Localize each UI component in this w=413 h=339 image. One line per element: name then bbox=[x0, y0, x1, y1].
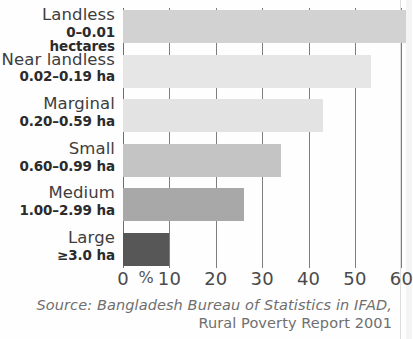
category-label-near-landless: Near landless0.02–0.19 ha bbox=[0, 51, 115, 84]
plot-area bbox=[123, 8, 392, 268]
category-name: Medium bbox=[0, 184, 115, 202]
category-name: Marginal bbox=[0, 95, 115, 113]
category-label-marginal: Marginal0.20–0.59 ha bbox=[0, 95, 115, 128]
category-label-landless: Landless0–0.01 hectares bbox=[0, 6, 115, 54]
x-axis-tick-labels: 0102030405060% bbox=[0, 268, 412, 294]
bar-marginal bbox=[123, 99, 323, 132]
category-range: 1.00–2.99 ha bbox=[0, 203, 115, 218]
category-name: Small bbox=[0, 140, 115, 158]
x-tick-label-50: 50 bbox=[343, 268, 366, 289]
category-range: 0.02–0.19 ha bbox=[0, 69, 115, 84]
bar-small bbox=[123, 144, 281, 177]
bar-medium bbox=[123, 188, 244, 221]
category-name: Large bbox=[0, 229, 115, 247]
bar-near-landless bbox=[123, 55, 371, 88]
gridline-60 bbox=[401, 8, 402, 268]
gridline-40 bbox=[309, 8, 310, 268]
category-name: Landless bbox=[0, 6, 115, 24]
source-note: Source: Bangladesh Bureau of Statistics … bbox=[0, 297, 400, 331]
gridline-30 bbox=[262, 8, 263, 268]
gridline-10 bbox=[169, 8, 170, 268]
category-range: 0.20–0.59 ha bbox=[0, 114, 115, 129]
category-label-small: Small0.60–0.99 ha bbox=[0, 140, 115, 173]
category-axis-labels: Landless0–0.01 hectaresNear landless0.02… bbox=[0, 8, 119, 268]
source-line-2: Rural Poverty Report 2001 bbox=[0, 315, 392, 331]
category-range: 0.60–0.99 ha bbox=[0, 159, 115, 174]
category-range: ≥3.0 ha bbox=[0, 248, 115, 263]
bar-large bbox=[123, 233, 169, 266]
gridline-0 bbox=[123, 8, 124, 268]
source-line-1: Source: Bangladesh Bureau of Statistics … bbox=[0, 297, 392, 313]
bar-landless bbox=[123, 10, 406, 43]
category-label-large: Large≥3.0 ha bbox=[0, 229, 115, 262]
category-name: Near landless bbox=[0, 51, 115, 69]
x-tick-label-0: 0 bbox=[117, 268, 129, 289]
x-tick-label-60: 60 bbox=[390, 268, 413, 289]
gridline-20 bbox=[216, 8, 217, 268]
x-tick-label-20: 20 bbox=[204, 268, 227, 289]
x-tick-label-40: 40 bbox=[297, 268, 320, 289]
gridline-50 bbox=[355, 8, 356, 268]
percent-symbol-label: % bbox=[138, 268, 153, 287]
x-tick-label-30: 30 bbox=[251, 268, 274, 289]
x-tick-label-10: 10 bbox=[158, 268, 181, 289]
category-label-medium: Medium1.00–2.99 ha bbox=[0, 184, 115, 217]
